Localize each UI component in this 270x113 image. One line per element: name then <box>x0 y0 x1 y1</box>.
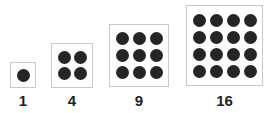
dot-icon <box>244 65 257 78</box>
dot-icon <box>193 48 206 61</box>
dot-icon <box>150 66 163 79</box>
dot-array-4 <box>51 43 93 88</box>
dot-icon <box>227 65 240 78</box>
count-label: 16 <box>186 92 263 109</box>
dot-icon <box>150 32 163 45</box>
dot-icon <box>133 66 146 79</box>
dot-icon <box>210 48 223 61</box>
dot-icon <box>244 14 257 27</box>
dot-icon <box>74 51 87 64</box>
dot-icon <box>116 49 129 62</box>
dot-icon <box>133 32 146 45</box>
dot-icon <box>227 48 240 61</box>
count-label: 9 <box>109 92 169 109</box>
dot-icon <box>116 32 129 45</box>
dot-icon <box>74 67 87 80</box>
dot-icon <box>210 31 223 44</box>
dot-icon <box>210 14 223 27</box>
dot-array-16 <box>186 5 263 86</box>
dot-icon <box>193 14 206 27</box>
count-label: 1 <box>10 92 36 109</box>
dot-icon <box>133 49 146 62</box>
dot-icon <box>150 49 163 62</box>
dot-icon <box>227 31 240 44</box>
dot-icon <box>244 48 257 61</box>
dot-icon <box>227 14 240 27</box>
dot-array-1 <box>10 62 36 88</box>
dot-icon <box>17 69 30 82</box>
count-label: 4 <box>51 92 93 109</box>
dot-icon <box>193 31 206 44</box>
dot-icon <box>58 67 71 80</box>
dot-icon <box>116 66 129 79</box>
dot-icon <box>58 51 71 64</box>
dot-icon <box>210 65 223 78</box>
dot-array-9 <box>109 24 169 87</box>
dot-icon <box>244 31 257 44</box>
dot-icon <box>193 65 206 78</box>
